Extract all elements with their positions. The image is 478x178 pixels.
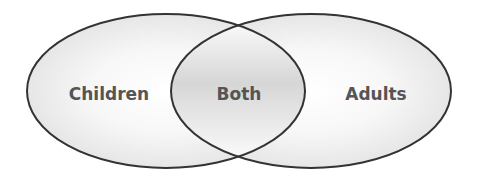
both-label: Both xyxy=(217,84,262,104)
venn-diagram: Children Both Adults xyxy=(0,0,478,178)
children-label: Children xyxy=(69,84,149,104)
adults-label: Adults xyxy=(345,84,407,104)
